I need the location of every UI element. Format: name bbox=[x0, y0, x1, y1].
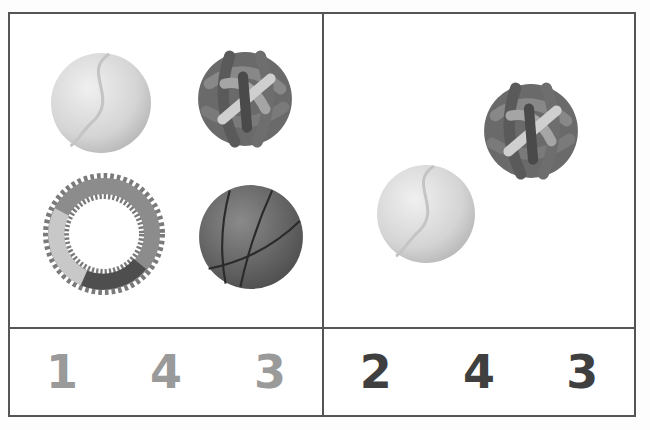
right-picture-panel bbox=[324, 14, 634, 327]
tennis-ball-icon bbox=[50, 52, 152, 154]
worksheet-frame: 1 4 3 2 4 3 bbox=[8, 12, 636, 417]
left-answer-row: 1 4 3 bbox=[10, 329, 322, 415]
answer-choice[interactable]: 4 bbox=[136, 349, 196, 395]
knot-ball-icon bbox=[194, 47, 296, 151]
answer-choice[interactable]: 3 bbox=[240, 349, 300, 395]
answer-choice[interactable]: 4 bbox=[449, 349, 509, 395]
knot-ball-icon bbox=[480, 79, 582, 183]
right-answer-row: 2 4 3 bbox=[324, 329, 634, 415]
answer-choice[interactable]: 3 bbox=[552, 349, 612, 395]
spiky-ring-icon bbox=[40, 172, 168, 297]
answer-choice[interactable]: 1 bbox=[32, 349, 92, 395]
left-picture-panel bbox=[10, 14, 322, 327]
basketball-icon bbox=[198, 184, 304, 290]
answer-choice[interactable]: 2 bbox=[346, 349, 406, 395]
tennis-ball-icon bbox=[376, 164, 476, 264]
